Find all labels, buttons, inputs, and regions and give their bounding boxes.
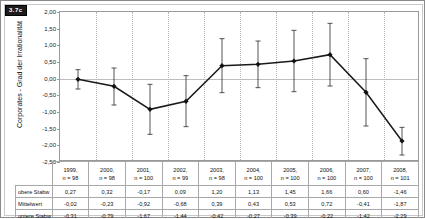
plot-wrapper: 2,001,501,000,500,00-0,50-1,00-1,50-2,00…	[59, 11, 419, 161]
cell-lower: -0,39	[272, 210, 309, 219]
x-axis-label-cell: 2002,n = 99	[162, 162, 199, 186]
table-row-upper: obere Stabw 0,270,32-0,170,091,201,131,4…	[16, 186, 419, 198]
x-axis-label-cell: 2004,n = 100	[235, 162, 272, 186]
x-axis-sample-size: n = 101	[382, 174, 418, 182]
x-axis-sample-size: n = 98	[89, 174, 125, 182]
cell-lower: -0,27	[235, 210, 272, 219]
y-tick-label: 0,50	[44, 59, 56, 65]
cell-upper: 1,45	[272, 186, 309, 198]
error-bar-line-series	[60, 12, 420, 162]
cell-upper: 1,13	[235, 186, 272, 198]
cell-upper: 0,09	[162, 186, 199, 198]
x-axis-sample-size: n = 100	[126, 174, 162, 182]
x-axis-label-cell: 1999,n = 98	[52, 162, 89, 186]
y-tick-label: 1,00	[44, 42, 56, 48]
plot-area: 2,001,501,000,500,00-0,50-1,00-1,50-2,00…	[59, 11, 419, 161]
y-axis-title: Corporates - Grad der Irrationalität	[16, 5, 23, 145]
x-axis-label-cell: 2008,n = 101	[382, 162, 419, 186]
x-axis-year: 2002,	[163, 166, 199, 174]
x-axis-label-cell: 2003,n = 98	[199, 162, 236, 186]
cell-upper: 0,32	[89, 186, 126, 198]
x-axis-sample-size: n = 100	[272, 174, 308, 182]
x-axis-year: 2007,	[346, 166, 382, 174]
cell-lower: -2,29	[382, 210, 419, 219]
x-axis-sample-size: n = 99	[163, 174, 199, 182]
figure-number-badge: 3.7c	[5, 5, 27, 16]
cell-lower: -0,31	[52, 210, 89, 219]
row-label-upper: obere Stabw	[16, 186, 53, 198]
data-table: 1999,n = 982000,n = 982001,n = 1002002,n…	[15, 161, 419, 218]
y-tick-label: 0,00	[44, 76, 56, 82]
data-point-marker	[291, 58, 296, 63]
x-axis-label-cell: 2007,n = 100	[345, 162, 382, 186]
figure-container: 3.7c Corporates - Grad der Irrationalitä…	[0, 0, 425, 218]
row-label-mean: Mittelwert	[16, 198, 53, 210]
y-tick-label: -1,00	[42, 109, 56, 115]
x-axis-label-cell: 2006,n = 100	[309, 162, 346, 186]
y-tick-label: -2,00	[42, 142, 56, 148]
x-axis-label-cell: 2005,n = 100	[272, 162, 309, 186]
cell-mean: -0,02	[52, 198, 89, 210]
table-row-xlabels: 1999,n = 982000,n = 982001,n = 1002002,n…	[16, 162, 419, 186]
cell-upper: 1,66	[309, 186, 346, 198]
x-axis-year: 1999,	[53, 166, 89, 174]
table-row-lower: untere Stabw -0,31-0,79-1,67-1,44-0,42-0…	[16, 210, 419, 219]
table-row-mean: Mittelwert -0,02-0,23-0,92-0,680,390,430…	[16, 198, 419, 210]
y-tick-label: 2,00	[44, 9, 56, 15]
cell-lower: -0,22	[309, 210, 346, 219]
cell-upper: -1,46	[382, 186, 419, 198]
cell-mean: -0,92	[125, 198, 162, 210]
x-axis-sample-size: n = 100	[346, 174, 382, 182]
x-axis-sample-size: n = 100	[309, 174, 345, 182]
x-axis-year: 2000,	[89, 166, 125, 174]
cell-upper: 0,60	[345, 186, 382, 198]
x-axis-year: 2008,	[382, 166, 418, 174]
mean-line	[78, 55, 402, 141]
cell-mean: 0,72	[309, 198, 346, 210]
cell-lower: -0,42	[199, 210, 236, 219]
cell-mean: 0,39	[199, 198, 236, 210]
cell-mean: -0,41	[345, 198, 382, 210]
x-axis-year: 2003,	[199, 166, 235, 174]
x-axis-label-cell: 2000,n = 98	[89, 162, 126, 186]
data-table-block: 1999,n = 982000,n = 982001,n = 1002002,n…	[15, 161, 419, 218]
cell-lower: -1,44	[162, 210, 199, 219]
y-tick-label: -0,50	[42, 92, 56, 98]
cell-mean: 0,53	[272, 198, 309, 210]
x-axis-year: 2005,	[272, 166, 308, 174]
data-point-marker	[255, 62, 260, 67]
x-axis-sample-size: n = 98	[53, 174, 89, 182]
cell-mean: -1,87	[382, 198, 419, 210]
x-axis-year: 2004,	[236, 166, 272, 174]
cell-mean: 0,43	[235, 198, 272, 210]
cell-lower: -1,42	[345, 210, 382, 219]
table-corner-cell	[16, 162, 53, 186]
x-axis-label-cell: 2001,n = 100	[125, 162, 162, 186]
x-axis-year: 2006,	[309, 166, 345, 174]
row-label-lower: untere Stabw	[16, 210, 53, 219]
data-point-marker	[75, 77, 80, 82]
cell-lower: -1,67	[125, 210, 162, 219]
cell-upper: -0,17	[125, 186, 162, 198]
x-axis-year: 2001,	[126, 166, 162, 174]
x-axis-sample-size: n = 98	[199, 174, 235, 182]
cell-mean: -0,68	[162, 198, 199, 210]
x-axis-sample-size: n = 100	[236, 174, 272, 182]
y-tick-label: 1,50	[44, 26, 56, 32]
cell-upper: 0,27	[52, 186, 89, 198]
y-tick-label: -1,50	[42, 126, 56, 132]
cell-upper: 1,20	[199, 186, 236, 198]
cell-lower: -0,79	[89, 210, 126, 219]
cell-mean: -0,23	[89, 198, 126, 210]
